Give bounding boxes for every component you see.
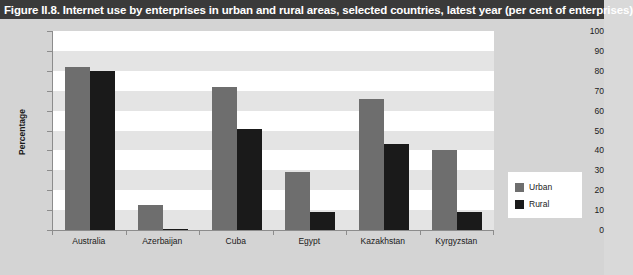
x-tick-mark — [346, 231, 347, 235]
legend-label-rural: Rural — [529, 199, 549, 209]
bar-groups — [53, 31, 494, 230]
y-tick-label: 90 — [560, 46, 604, 56]
bar-rural — [457, 212, 482, 230]
bar-rural — [384, 144, 409, 230]
x-tick-label: Kazakhstan — [361, 236, 405, 246]
figure-title-bar: Figure II.8. Internet use by enterprises… — [0, 0, 604, 19]
x-tick-label: Kyrgyzstan — [435, 236, 477, 246]
x-tick-label: Azerbaijan — [142, 236, 182, 246]
x-tick-mark — [199, 231, 200, 235]
y-tick-label: 40 — [560, 145, 604, 155]
chart-area: Percentage 0102030405060708090100 Austra… — [0, 19, 604, 275]
bar-urban — [138, 205, 163, 230]
x-tick-mark — [126, 231, 127, 235]
bar-urban — [65, 67, 90, 230]
bar-group — [421, 31, 495, 230]
y-tick-label: 100 — [560, 26, 604, 36]
x-tick-label: Cuba — [226, 236, 246, 246]
y-tick-label: 60 — [560, 106, 604, 116]
bar-urban — [285, 172, 310, 230]
bar-urban — [432, 150, 457, 230]
y-tick-label: 0 — [560, 225, 604, 235]
legend-label-urban: Urban — [529, 182, 552, 192]
legend-swatch-urban — [515, 183, 524, 192]
bar-group — [347, 31, 421, 230]
y-tick-label: 80 — [560, 66, 604, 76]
x-tick-mark — [420, 231, 421, 235]
bar-rural — [90, 71, 115, 230]
figure-title: Figure II.8. Internet use by enterprises… — [0, 4, 633, 16]
plot-area — [52, 31, 494, 231]
bar-group — [53, 31, 127, 230]
bar-urban — [359, 99, 384, 230]
legend-item-urban: Urban — [515, 182, 576, 192]
y-tick-label: 50 — [560, 126, 604, 136]
bar-group — [127, 31, 201, 230]
y-tick-label: 70 — [560, 86, 604, 96]
x-tick-mark — [273, 231, 274, 235]
bar-rural — [237, 129, 262, 230]
legend-item-rural: Rural — [515, 199, 576, 209]
x-tick-mark — [52, 231, 53, 235]
chart-legend: Urban Rural — [508, 172, 582, 218]
bar-group — [200, 31, 274, 230]
x-tick-mark — [493, 231, 494, 235]
y-axis-title: Percentage — [17, 92, 27, 172]
bar-rural — [310, 212, 335, 230]
x-tick-label: Egypt — [298, 236, 320, 246]
bar-urban — [212, 87, 237, 230]
bar-group — [274, 31, 348, 230]
x-tick-label: Australia — [72, 236, 105, 246]
bar-rural — [163, 229, 188, 230]
legend-swatch-rural — [515, 200, 524, 209]
